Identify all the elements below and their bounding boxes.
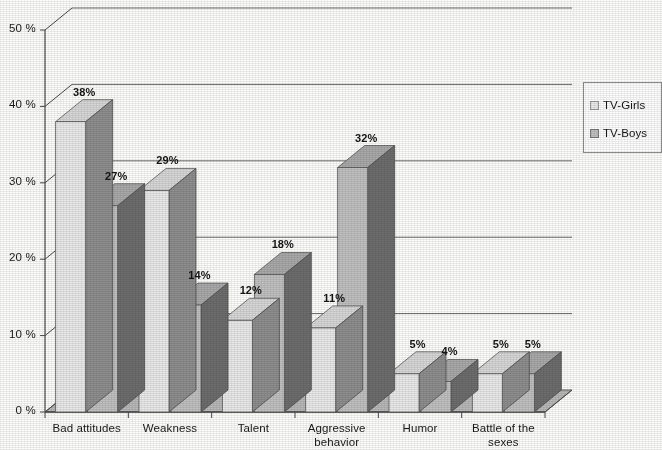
x-axis-label-5: Battle of the sexes: [448, 422, 558, 449]
value-label-tv-boys-2: 18%: [263, 238, 303, 250]
legend-label-tv-girls: TV-Girls: [603, 99, 645, 111]
y-depth-connector-50: [45, 8, 72, 30]
legend: TV-Girls TV-Boys: [583, 82, 662, 153]
legend-swatch-tv-boys: [590, 129, 599, 138]
y-axis-label-30: 30 %: [9, 175, 36, 187]
value-label-tv-girls-2: 12%: [231, 284, 271, 296]
value-label-tv-girls-0: 38%: [64, 86, 104, 98]
y-axis-label-20: 20 %: [9, 251, 36, 263]
bar-tv-girls-2: [222, 298, 279, 412]
bar-tv-girls-3: [306, 306, 363, 412]
value-label-tv-boys-0: 27%: [96, 170, 136, 182]
value-label-tv-boys-1: 14%: [180, 269, 220, 281]
bar-tv-girls-0: [56, 100, 113, 412]
chart-container: 0 %10 %20 %30 %40 %50 % Bad attitudesWea…: [0, 0, 662, 450]
legend-swatch-tv-girls: [590, 101, 599, 110]
y-axis-label-50: 50 %: [9, 22, 36, 34]
value-label-tv-girls-1: 29%: [148, 154, 188, 166]
y-axis-label-10: 10 %: [9, 328, 36, 340]
bar-tv-girls-1: [139, 168, 196, 412]
bar-chart-plot: [0, 0, 662, 450]
value-label-tv-boys-4: 4%: [430, 345, 470, 357]
legend-item-tv-girls[interactable]: TV-Girls: [590, 99, 645, 111]
y-axis-label-40: 40 %: [9, 98, 36, 110]
legend-label-tv-boys: TV-Boys: [603, 127, 647, 139]
value-label-tv-boys-5: 5%: [513, 338, 553, 350]
legend-item-tv-boys[interactable]: TV-Boys: [590, 127, 647, 139]
y-axis-label-0: 0 %: [16, 404, 36, 416]
value-label-tv-girls-3: 11%: [314, 292, 354, 304]
value-label-tv-boys-3: 32%: [346, 132, 386, 144]
